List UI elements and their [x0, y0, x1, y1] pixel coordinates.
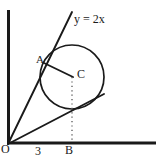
label-center-c: C — [77, 68, 85, 80]
label-point-a: A — [36, 54, 44, 65]
label-x-tick-3: 3 — [35, 145, 41, 157]
label-point-b: B — [65, 144, 73, 156]
line-y-equals-2x — [8, 12, 72, 144]
label-line-equation: y = 2x — [74, 13, 105, 25]
segment-a-to-c — [44, 63, 73, 77]
label-origin-o: O — [1, 143, 10, 155]
geometry-figure: O 3 B A C y = 2x — [0, 0, 156, 159]
segment-o-to-c — [8, 94, 104, 144]
